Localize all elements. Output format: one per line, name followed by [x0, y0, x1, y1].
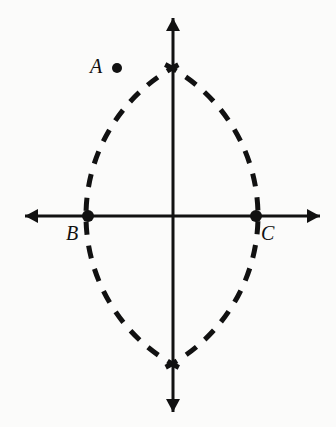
construction-diagram-canvas — [0, 0, 336, 427]
point-label-a: A — [90, 56, 102, 76]
point-label-b: B — [66, 223, 78, 243]
vertical-axis-bottom-arrowhead — [166, 399, 180, 412]
horizontal-axis-left-arrowhead — [25, 209, 38, 223]
geometry-figure: A B C — [0, 0, 336, 427]
point-marker-a — [112, 63, 122, 73]
point-marker-c — [250, 210, 262, 222]
vertical-axis-top-arrowhead — [166, 18, 180, 31]
horizontal-axis-right-arrowhead — [307, 209, 320, 223]
axes-group — [25, 18, 320, 412]
point-label-c: C — [261, 223, 274, 243]
point-marker-b — [82, 210, 94, 222]
